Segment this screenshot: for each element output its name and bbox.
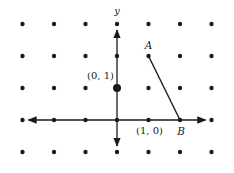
lattice-dot	[178, 150, 182, 154]
lattice-dot	[178, 86, 182, 90]
lattice-dot	[83, 150, 87, 154]
lattice-dot	[83, 86, 87, 90]
lattice-dot	[83, 54, 87, 58]
segment-ab	[149, 56, 181, 120]
lattice-dot	[52, 54, 56, 58]
lattice-dot	[52, 86, 56, 90]
lattice-dot	[20, 22, 24, 26]
lattice-dot	[146, 150, 150, 154]
point-0-1	[113, 84, 121, 92]
lattice-dot	[20, 86, 24, 90]
lattice-dot	[83, 22, 87, 26]
lattice-dot	[209, 150, 213, 154]
lattice-dot	[146, 86, 150, 90]
lattice-dot	[209, 86, 213, 90]
lattice-dot	[52, 150, 56, 154]
y-axis-label: y	[113, 5, 120, 16]
lattice-dot	[178, 22, 182, 26]
lattice-dot	[178, 54, 182, 58]
point-a-label: A	[144, 39, 153, 51]
lattice-dot	[20, 118, 24, 122]
lattice-dot	[115, 22, 119, 26]
lattice-dot	[146, 22, 150, 26]
point-0-1-label: (0, 1)	[87, 70, 114, 81]
lattice-dot	[115, 150, 119, 154]
lattice-dot	[209, 54, 213, 58]
point-1-0-label: (1, 0)	[136, 125, 163, 136]
lattice-dot	[209, 22, 213, 26]
lattice-dot	[52, 22, 56, 26]
lattice-dot	[20, 150, 24, 154]
point-b-label: B	[176, 125, 185, 137]
lattice-dot	[209, 118, 213, 122]
lattice-dot	[20, 54, 24, 58]
lattice-diagram: y (0, 1) A B (1, 0)	[0, 0, 234, 173]
